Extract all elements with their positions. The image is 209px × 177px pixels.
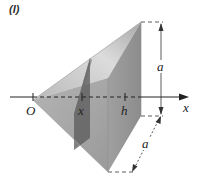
- label-dimension-a: a: [156, 60, 165, 73]
- pyramid-svg: [0, 0, 209, 177]
- label-axis-x: x: [183, 101, 189, 114]
- arrow-downleft-icon: [132, 164, 138, 172]
- figure-tag: (I): [9, 3, 19, 15]
- pyramid-diagram: (I) O x h x a a: [0, 0, 209, 177]
- label-slice-x: x: [78, 104, 84, 117]
- label-origin: O: [26, 104, 35, 117]
- arrow-up-icon: [159, 23, 164, 31]
- arrow-down-icon: [159, 107, 164, 115]
- arrow-upright-icon: [156, 116, 162, 124]
- label-height-h: h: [121, 104, 128, 117]
- label-dimension-a-depth: a: [141, 137, 150, 150]
